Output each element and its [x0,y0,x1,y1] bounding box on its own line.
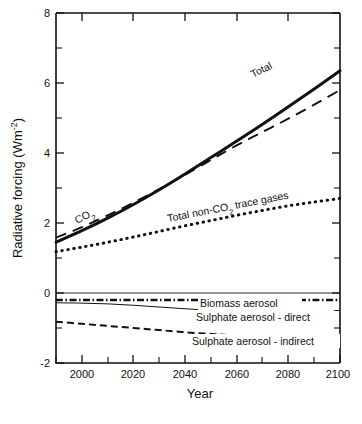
x-axis-title: Year [187,386,214,401]
x-tick-label: 2080 [276,368,300,380]
x-tick-label: 2040 [173,368,197,380]
y-tick-label: 4 [44,147,50,159]
data-curves [56,71,340,337]
y-tick-label: 2 [44,217,50,229]
annotation-total-non-co2: Total non-CO2 trace gases [166,189,290,229]
x-tick-label: 2060 [225,368,249,380]
y-axis-title-close: ) [10,118,25,122]
figure-container: 8 6 4 2 0 -2 2000 2020 2040 2060 2080 21… [0,0,362,424]
annotation-total: Total [248,59,273,80]
y-axis-title-main: Radiative forcing (Wm [10,130,25,258]
x-tick-labels: 2000 2020 2040 2060 2080 2100 [70,368,350,380]
series-annotations: Total CO2 Total non-CO2 trace gases Biom… [72,59,340,348]
y-axis-title: Radiative forcing (Wm-2) [9,118,25,258]
annotation-biomass-aerosol: Biomass aerosol [200,297,278,309]
y-tick-label: 8 [44,7,50,19]
annotation-sulphate-direct: Sulphate aerosol - direct [196,311,310,323]
x-tick-label: 2020 [121,368,145,380]
y-tick-labels: 8 6 4 2 0 -2 [40,7,50,369]
y-tick-label: 6 [44,77,50,89]
svg-text:Radiative forcing (Wm-2): Radiative forcing (Wm-2) [9,118,25,258]
x-tick-label: 2100 [326,368,350,380]
annotation-sulphate-indirect: Sulphate aerosol - indirect [192,335,314,347]
x-tick-label: 2000 [70,368,94,380]
y-tick-label: 0 [44,287,50,299]
y-axis-title-superscript: -2 [9,122,19,130]
y-tick-label: -2 [40,357,50,369]
radiative-forcing-chart: 8 6 4 2 0 -2 2000 2020 2040 2060 2080 21… [0,0,362,424]
